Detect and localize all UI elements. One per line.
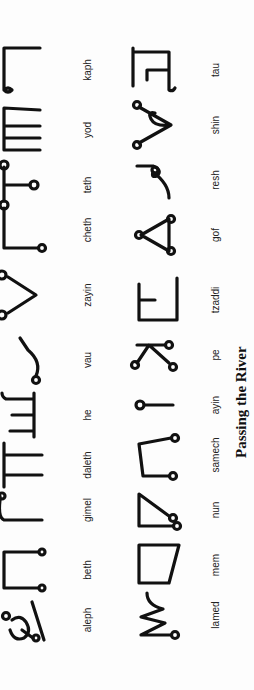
letter-label: kaph (82, 35, 93, 105)
letter-label: vau (82, 325, 93, 395)
letter-label: tzaddi (210, 265, 221, 335)
samech-glyph-icon (125, 430, 185, 490)
vau-glyph-icon (0, 330, 52, 390)
pe-glyph-icon (125, 325, 185, 385)
rotated-page: aleph beth gimel daleth he vau zayin che… (0, 0, 254, 690)
letter-label: beth (82, 535, 93, 605)
he-glyph-icon (0, 385, 48, 445)
beth-glyph-icon (0, 540, 50, 600)
tzaddi-glyph-icon (125, 270, 185, 330)
zayin-glyph-icon (0, 265, 50, 325)
gof-glyph-icon (125, 205, 185, 265)
yod-glyph-icon (0, 100, 50, 160)
resh-glyph-icon (125, 150, 185, 210)
letter-label: tau (210, 35, 221, 105)
mem-glyph-icon (125, 535, 185, 595)
tau-glyph-icon (125, 40, 185, 100)
page-title: Passing the River (233, 346, 250, 458)
letter-label: zayin (82, 260, 93, 330)
letter-label: yod (82, 95, 93, 165)
shin-glyph-icon (125, 95, 185, 155)
kaph-glyph-icon (0, 40, 50, 100)
teth-glyph-icon (0, 155, 50, 215)
